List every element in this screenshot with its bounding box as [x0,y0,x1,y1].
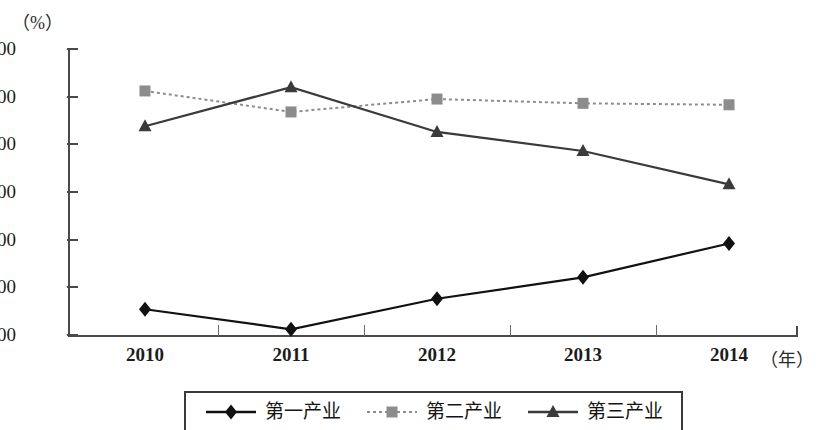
chart-legend: 第一产业第二产业第三产业 [184,391,683,430]
x-axis-tick-label: 2012 [418,345,456,364]
x-axis-tick-label: 2011 [273,345,310,364]
data-point-marker [724,99,735,110]
x-axis-tick-label: 2014 [710,345,748,364]
y-axis-tick-label: 0.00 [0,325,16,344]
y-axis-tick-label: 60.00 [0,39,16,58]
legend-marker-icon [366,403,418,421]
plot-area: 60.0050.0040.0030.0020.0010.000.00 20102… [68,49,798,337]
data-point-marker [723,236,735,251]
series-line [145,243,729,329]
legend-item[interactable]: 第三产业 [527,402,663,421]
data-point-marker [140,85,151,96]
legend-item[interactable]: 第一产业 [205,402,341,421]
y-axis-tick-label: 10.00 [0,277,16,296]
data-point-marker [286,106,297,117]
data-point-marker [431,291,443,306]
x-axis-unit-label: （年） [760,345,814,371]
legend-label: 第一产业 [265,402,341,421]
data-point-marker [578,98,589,109]
x-axis-tick-label: 2013 [564,345,602,364]
line-chart: （%） （年） 60.0050.0040.0030.0020.0010.000.… [0,0,827,430]
y-axis-tick-label: 40.00 [0,134,16,153]
data-point-marker [225,404,237,419]
y-axis-tick-label: 50.00 [0,87,16,106]
legend-label: 第三产业 [587,402,663,421]
x-axis-tick-label: 2010 [126,345,164,364]
series-lines [68,49,798,337]
data-point-marker [139,302,151,317]
data-point-marker [386,406,397,417]
data-point-marker [285,80,298,92]
y-axis-tick-label: 20.00 [0,230,16,249]
y-axis-tick-label: 30.00 [0,182,16,201]
data-point-marker [432,94,443,105]
legend-label: 第二产业 [426,402,502,421]
data-point-marker [577,270,589,285]
data-point-marker [285,322,297,337]
legend-marker-icon [205,403,257,421]
y-axis-unit-label: （%） [12,8,63,34]
legend-marker-icon [527,403,579,421]
legend-item[interactable]: 第二产业 [366,402,502,421]
